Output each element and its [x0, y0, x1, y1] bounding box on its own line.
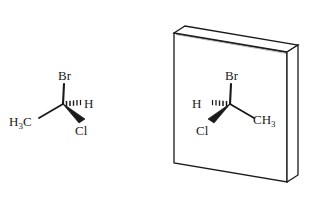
label-h-right: H [192, 96, 201, 111]
bond-c-cl-wedge-left [62, 103, 85, 123]
label-br-left: Br [58, 68, 72, 83]
molecule-left-enantiomer: Br H3C H Cl [9, 68, 93, 138]
label-methyl-c-left: C [23, 114, 32, 129]
chirality-diagram: Br H3C H Cl Br [0, 0, 315, 198]
bond-c-br-left [63, 84, 64, 104]
figure-canvas: Br H3C H Cl Br [0, 0, 315, 198]
label-methyl-subscript-right: 3 [271, 119, 276, 129]
label-methyl-left: H3C [9, 114, 32, 131]
label-cl-right: Cl [196, 123, 209, 138]
label-methyl-h-left: H [9, 114, 18, 129]
label-h-left: H [84, 96, 93, 111]
label-cl-left: Cl [75, 123, 88, 138]
label-methyl-ch-right: CH [253, 112, 271, 127]
mirror-front-face [174, 33, 287, 182]
bond-c-h-hashed-left [67, 100, 81, 107]
bond-c-br-right [230, 84, 231, 104]
bond-c-methyl-left [39, 104, 63, 118]
label-br-right: Br [225, 68, 239, 83]
mirror-side-edge-face [287, 45, 298, 182]
